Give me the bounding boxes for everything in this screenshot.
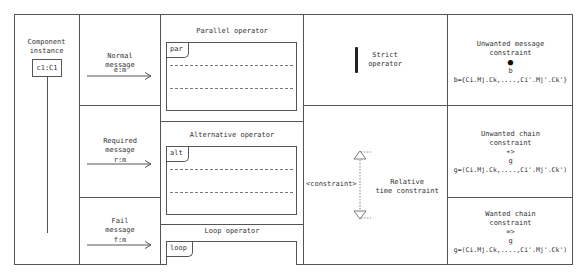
constraint-title-line: Unwanted chain [448, 130, 573, 139]
constraint-formula: g=(Ci.Mj.Ck,....,Ci'.Mj'.Ck') [448, 166, 573, 175]
message-title-line: Required [80, 137, 160, 146]
lifeline [47, 77, 48, 233]
time-constraint-title-line: time constraint [372, 187, 442, 196]
strict-label-line: Strict [363, 51, 407, 60]
constraint-title-line: constraint [448, 139, 573, 148]
component-instance-title: Component instance [14, 38, 79, 56]
operator-title: Loop operator [161, 227, 303, 236]
constraint-variable: g [448, 237, 573, 246]
fragment-tag: loop [167, 242, 193, 257]
instance-label: c1:C1 [33, 64, 61, 73]
alternative-fragment: alt [166, 146, 297, 215]
operand-separator [170, 169, 293, 170]
strict-label-line: operator [363, 60, 407, 69]
title-line: Component [14, 38, 79, 47]
constraint-title-line: constraint [448, 219, 573, 228]
message-title: Fail message [80, 217, 160, 235]
constraint-formula: b={Ci.Mj.Ck,....,Ci'.Mj'.Ck'} [448, 76, 573, 85]
constraint-label: <constraint> [306, 180, 358, 189]
operand-separator [170, 88, 293, 89]
row-divider [160, 121, 303, 122]
constraint-formula: g=(Ci.Mj.Ck,....,Ci'.Mj'.Ck') [448, 246, 573, 255]
row-divider [303, 105, 447, 106]
message-arrow-icon [87, 160, 153, 168]
message-title-line: Fail [80, 217, 160, 226]
time-constraint-title: Relative time constraint [372, 178, 442, 196]
wanted-chain-arrow-icon: => [448, 228, 573, 237]
parallel-fragment: par [166, 42, 297, 111]
row-divider [160, 224, 303, 225]
message-arrow-icon [87, 72, 153, 80]
constraint-title-line: Unwanted message [448, 40, 573, 49]
operator-title: Alternative operator [161, 131, 303, 140]
fragment-tag: alt [167, 147, 189, 162]
title-line: instance [14, 47, 79, 56]
constraint-title: Wanted chain constraint [448, 210, 573, 228]
message-arrow-icon [87, 241, 153, 249]
strict-label: Strict operator [363, 51, 407, 69]
lifeline-head: c1:C1 [32, 59, 62, 77]
row-divider [79, 197, 160, 198]
loop-fragment: loop [166, 241, 297, 265]
time-constraint-title-line: Relative [372, 178, 442, 187]
constraint-variable: b [448, 67, 573, 76]
fragment-tag: par [167, 43, 189, 58]
column-divider [303, 14, 304, 265]
operator-title: Parallel operator [161, 27, 303, 36]
constraint-variable: g [448, 157, 573, 166]
unwanted-message-dot-icon: ● [448, 57, 573, 67]
operand-separator [170, 192, 293, 193]
unwanted-chain-arrow-icon: ≁> [448, 148, 573, 157]
constraint-title-line: Wanted chain [448, 210, 573, 219]
row-divider [79, 105, 160, 106]
message-title-line: Normal [80, 52, 160, 61]
operand-separator [170, 65, 293, 66]
message-title-line: message [80, 146, 160, 155]
constraint-title: Unwanted message constraint [448, 40, 573, 58]
constraint-title: Unwanted chain constraint [448, 130, 573, 148]
message-title-line: message [80, 226, 160, 235]
row-divider [447, 105, 573, 106]
strict-bar-icon [355, 47, 358, 73]
row-divider [447, 197, 573, 198]
message-title: Required message [80, 137, 160, 155]
